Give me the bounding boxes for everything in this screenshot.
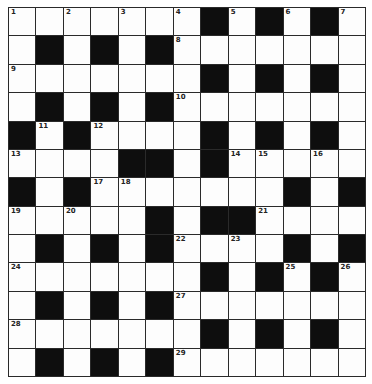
answer-cell[interactable] bbox=[229, 263, 255, 290]
answer-cell[interactable] bbox=[201, 178, 227, 205]
answer-cell[interactable] bbox=[36, 207, 62, 234]
answer-cell[interactable]: 5 bbox=[229, 8, 255, 35]
answer-cell[interactable] bbox=[64, 150, 90, 177]
answer-cell[interactable] bbox=[64, 36, 90, 63]
answer-cell[interactable] bbox=[284, 292, 310, 319]
answer-cell[interactable] bbox=[9, 235, 35, 262]
answer-cell[interactable] bbox=[119, 207, 145, 234]
answer-cell[interactable]: 25 bbox=[284, 263, 310, 290]
answer-cell[interactable] bbox=[339, 122, 365, 149]
answer-cell[interactable] bbox=[339, 150, 365, 177]
answer-cell[interactable] bbox=[201, 235, 227, 262]
answer-cell[interactable]: 3 bbox=[119, 8, 145, 35]
answer-cell[interactable] bbox=[256, 93, 282, 120]
answer-cell[interactable]: 29 bbox=[174, 349, 200, 376]
answer-cell[interactable] bbox=[146, 122, 172, 149]
answer-cell[interactable]: 15 bbox=[256, 150, 282, 177]
answer-cell[interactable] bbox=[339, 320, 365, 347]
answer-cell[interactable] bbox=[229, 320, 255, 347]
answer-cell[interactable] bbox=[284, 122, 310, 149]
answer-cell[interactable] bbox=[229, 65, 255, 92]
answer-cell[interactable] bbox=[311, 235, 337, 262]
answer-cell[interactable] bbox=[36, 178, 62, 205]
answer-cell[interactable] bbox=[9, 349, 35, 376]
answer-cell[interactable] bbox=[229, 178, 255, 205]
answer-cell[interactable] bbox=[256, 36, 282, 63]
answer-cell[interactable] bbox=[9, 292, 35, 319]
answer-cell[interactable] bbox=[174, 207, 200, 234]
answer-cell[interactable] bbox=[229, 349, 255, 376]
answer-cell[interactable] bbox=[119, 93, 145, 120]
answer-cell[interactable] bbox=[339, 93, 365, 120]
answer-cell[interactable] bbox=[146, 263, 172, 290]
answer-cell[interactable]: 12 bbox=[91, 122, 117, 149]
answer-cell[interactable] bbox=[64, 65, 90, 92]
answer-cell[interactable] bbox=[146, 320, 172, 347]
answer-cell[interactable]: 1 bbox=[9, 8, 35, 35]
answer-cell[interactable] bbox=[64, 349, 90, 376]
answer-cell[interactable]: 8 bbox=[174, 36, 200, 63]
answer-cell[interactable]: 24 bbox=[9, 263, 35, 290]
answer-cell[interactable]: 4 bbox=[174, 8, 200, 35]
answer-cell[interactable] bbox=[146, 8, 172, 35]
answer-cell[interactable]: 2 bbox=[64, 8, 90, 35]
answer-cell[interactable] bbox=[174, 122, 200, 149]
answer-cell[interactable] bbox=[91, 8, 117, 35]
answer-cell[interactable] bbox=[36, 150, 62, 177]
answer-cell[interactable] bbox=[119, 122, 145, 149]
answer-cell[interactable]: 28 bbox=[9, 320, 35, 347]
answer-cell[interactable]: 17 bbox=[91, 178, 117, 205]
answer-cell[interactable] bbox=[284, 65, 310, 92]
answer-cell[interactable] bbox=[256, 349, 282, 376]
answer-cell[interactable] bbox=[36, 320, 62, 347]
answer-cell[interactable]: 19 bbox=[9, 207, 35, 234]
answer-cell[interactable]: 22 bbox=[174, 235, 200, 262]
answer-cell[interactable]: 11 bbox=[36, 122, 62, 149]
answer-cell[interactable] bbox=[284, 36, 310, 63]
answer-cell[interactable] bbox=[284, 93, 310, 120]
answer-cell[interactable] bbox=[201, 93, 227, 120]
answer-cell[interactable] bbox=[119, 349, 145, 376]
answer-cell[interactable] bbox=[256, 235, 282, 262]
answer-cell[interactable] bbox=[119, 263, 145, 290]
answer-cell[interactable] bbox=[36, 65, 62, 92]
answer-cell[interactable] bbox=[311, 207, 337, 234]
answer-cell[interactable] bbox=[119, 36, 145, 63]
answer-cell[interactable] bbox=[64, 320, 90, 347]
answer-cell[interactable] bbox=[229, 93, 255, 120]
answer-cell[interactable] bbox=[9, 36, 35, 63]
answer-cell[interactable] bbox=[339, 349, 365, 376]
answer-cell[interactable] bbox=[119, 292, 145, 319]
answer-cell[interactable] bbox=[201, 36, 227, 63]
answer-cell[interactable]: 6 bbox=[284, 8, 310, 35]
answer-cell[interactable] bbox=[311, 93, 337, 120]
answer-cell[interactable] bbox=[311, 292, 337, 319]
answer-cell[interactable] bbox=[64, 292, 90, 319]
answer-cell[interactable] bbox=[229, 122, 255, 149]
answer-cell[interactable] bbox=[36, 8, 62, 35]
answer-cell[interactable] bbox=[91, 320, 117, 347]
answer-cell[interactable]: 13 bbox=[9, 150, 35, 177]
answer-cell[interactable] bbox=[229, 292, 255, 319]
answer-cell[interactable] bbox=[91, 207, 117, 234]
answer-cell[interactable]: 18 bbox=[119, 178, 145, 205]
answer-cell[interactable] bbox=[339, 65, 365, 92]
answer-cell[interactable] bbox=[284, 207, 310, 234]
answer-cell[interactable] bbox=[256, 292, 282, 319]
answer-cell[interactable] bbox=[9, 93, 35, 120]
answer-cell[interactable] bbox=[339, 36, 365, 63]
answer-cell[interactable] bbox=[311, 36, 337, 63]
answer-cell[interactable] bbox=[284, 150, 310, 177]
answer-cell[interactable]: 10 bbox=[174, 93, 200, 120]
answer-cell[interactable] bbox=[146, 178, 172, 205]
answer-cell[interactable] bbox=[174, 263, 200, 290]
answer-cell[interactable] bbox=[146, 65, 172, 92]
answer-cell[interactable]: 26 bbox=[339, 263, 365, 290]
answer-cell[interactable]: 27 bbox=[174, 292, 200, 319]
answer-cell[interactable] bbox=[64, 235, 90, 262]
answer-cell[interactable] bbox=[284, 320, 310, 347]
answer-cell[interactable] bbox=[256, 178, 282, 205]
answer-cell[interactable] bbox=[229, 36, 255, 63]
answer-cell[interactable] bbox=[119, 320, 145, 347]
answer-cell[interactable]: 14 bbox=[229, 150, 255, 177]
